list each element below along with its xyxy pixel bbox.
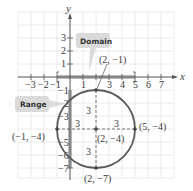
svg-text:1: 1: [81, 79, 86, 90]
svg-text:3: 3: [86, 105, 91, 116]
svg-text:5: 5: [133, 79, 138, 90]
svg-text:3: 3: [107, 79, 112, 90]
svg-text:3: 3: [61, 32, 66, 43]
svg-text:−2: −2: [38, 79, 49, 90]
radius-labels: 3 3 3 3: [75, 105, 119, 157]
y-axis-label: y: [65, 2, 71, 14]
coordinate-graph: x y −3 −2 −1 1 3 4 5 6 7 3 2 1 −1 −2 −3 …: [0, 0, 193, 191]
svg-text:−3: −3: [25, 79, 36, 90]
svg-text:3: 3: [75, 118, 80, 129]
range-callout-text: Range: [20, 100, 47, 109]
x-axis-label: x: [179, 70, 185, 82]
svg-text:6: 6: [146, 79, 151, 90]
point-bottom: [94, 166, 98, 170]
svg-text:1: 1: [61, 58, 66, 69]
svg-text:−1: −1: [58, 85, 69, 96]
svg-text:3: 3: [86, 146, 91, 157]
svg-text:4: 4: [120, 79, 125, 90]
svg-text:7: 7: [159, 79, 164, 90]
point-center: [94, 127, 98, 131]
domain-callout: Domain: [76, 33, 112, 72]
point-left: [55, 127, 59, 131]
label-right-point: (5, −4): [139, 121, 166, 133]
label-bottom-point: (2, −7): [84, 173, 111, 185]
svg-text:3: 3: [114, 118, 119, 129]
domain-callout-text: Domain: [80, 37, 112, 46]
label-center-point: (2, −4): [97, 133, 124, 145]
x-tick-labels: −3 −2 −1 1 3 4 5 6 7: [25, 79, 164, 90]
svg-text:−7: −7: [58, 163, 69, 174]
label-left-point: (−1, −4): [12, 131, 45, 143]
x-axis-arrow: [172, 75, 178, 79]
point-right: [133, 127, 137, 131]
svg-text:2: 2: [61, 45, 66, 56]
label-top-point: (2, −1): [99, 54, 126, 66]
